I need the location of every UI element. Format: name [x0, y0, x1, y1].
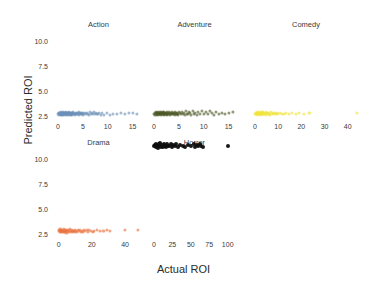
facet-action: Action2.55.07.510.0051015 — [52, 20, 145, 137]
data-point — [115, 113, 118, 116]
x-tick-label: 40 — [121, 241, 129, 248]
x-tick-label: 0 — [56, 123, 60, 130]
facet-horror: Horror0255075100 — [148, 138, 241, 255]
x-tick-label: 20 — [88, 241, 96, 248]
data-point — [297, 112, 300, 115]
x-tick-label: 15 — [225, 123, 233, 130]
data-point — [109, 229, 112, 232]
data-point — [212, 113, 215, 116]
panel-drama: 2.55.07.510.002040 — [52, 151, 145, 239]
x-tick-label: 0 — [152, 241, 156, 248]
panel-adventure: 051015 — [148, 33, 241, 121]
data-point — [223, 113, 226, 116]
x-tick-label: 0 — [253, 123, 257, 130]
data-point — [124, 228, 127, 231]
data-point — [302, 112, 305, 115]
x-tick-label: 40 — [344, 123, 352, 130]
x-tick-label: 10 — [200, 123, 208, 130]
x-axis-title: Actual ROI — [0, 263, 367, 275]
data-point — [231, 111, 234, 114]
y-tick-label: 2.5 — [26, 113, 48, 120]
facet-title-adventure: Adventure — [148, 20, 241, 29]
panel-comedy: 010203040 — [248, 33, 364, 121]
facet-title-comedy: Comedy — [248, 20, 364, 29]
facet-title-drama: Drama — [52, 138, 145, 147]
data-point — [227, 111, 230, 114]
x-tick-label: 0 — [152, 123, 156, 130]
x-tick-label: 5 — [81, 123, 85, 130]
y-tick-label: 5.0 — [26, 88, 48, 95]
data-point — [127, 112, 130, 115]
x-tick-label: 10 — [274, 123, 282, 130]
x-tick-label: 25 — [168, 241, 176, 248]
data-point — [119, 111, 122, 114]
x-tick-label: 50 — [187, 241, 195, 248]
y-tick-label: 10.0 — [26, 38, 48, 45]
data-point — [111, 112, 114, 115]
data-point — [137, 229, 140, 232]
facet-drama: Drama2.55.07.510.002040 — [52, 138, 145, 255]
x-tick-label: 0 — [57, 241, 61, 248]
x-tick-label: 15 — [129, 123, 137, 130]
y-tick-label: 2.5 — [26, 231, 48, 238]
y-tick-label: 7.5 — [26, 181, 48, 188]
panel-horror: 0255075100 — [148, 151, 241, 239]
facet-adventure: Adventure051015 — [148, 20, 241, 137]
x-tick-label: 100 — [222, 241, 234, 248]
data-point — [308, 112, 311, 115]
data-point — [123, 112, 126, 115]
y-axis-title: Predicted ROI — [22, 30, 34, 190]
data-point — [206, 112, 209, 115]
facet-comedy: Comedy010203040 — [248, 20, 364, 137]
x-tick-label: 20 — [297, 123, 305, 130]
chart-root: Predicted ROI Actual ROI Action2.55.07.5… — [0, 0, 367, 283]
x-tick-label: 5 — [177, 123, 181, 130]
x-tick-label: 30 — [321, 123, 329, 130]
data-point — [135, 112, 138, 115]
data-point — [226, 144, 230, 148]
data-point — [355, 111, 358, 114]
x-tick-label: 75 — [205, 241, 213, 248]
y-tick-label: 10.0 — [26, 156, 48, 163]
y-tick-label: 5.0 — [26, 206, 48, 213]
data-point — [131, 111, 134, 114]
data-point — [201, 145, 205, 149]
facet-title-action: Action — [52, 20, 145, 29]
y-tick-label: 7.5 — [26, 63, 48, 70]
x-tick-label: 10 — [104, 123, 112, 130]
panel-action: 2.55.07.510.0051015 — [52, 33, 145, 121]
